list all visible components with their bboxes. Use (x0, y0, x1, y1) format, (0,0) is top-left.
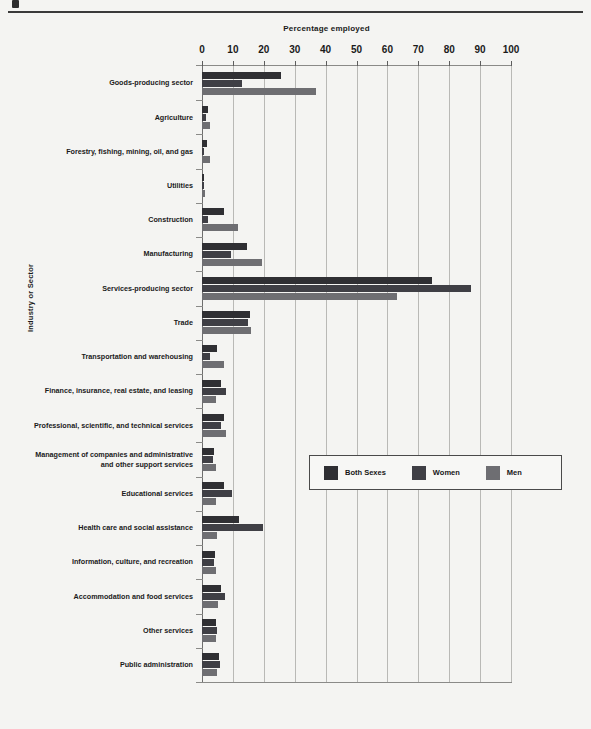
bar-both-sexes (202, 106, 208, 113)
category-label: Finance, insurance, real estate, and lea… (0, 386, 193, 396)
category-label: Manufacturing (0, 249, 193, 259)
category-separator (196, 682, 203, 683)
gridline-100 (511, 66, 512, 682)
bar-women (202, 114, 206, 121)
bar-both-sexes (202, 653, 219, 660)
bar-men (202, 259, 262, 266)
category-label: Educational services (0, 489, 193, 499)
bar-men (202, 224, 238, 231)
bar-women (202, 593, 225, 600)
bar-both-sexes (202, 619, 216, 626)
bar-men (202, 190, 205, 197)
x-tick-label-50: 50 (351, 44, 362, 55)
bar-both-sexes (202, 551, 215, 558)
x-tick-label-60: 60 (382, 44, 393, 55)
bar-row: Information, culture, and recreation (202, 545, 511, 579)
legend-item[interactable]: Women (412, 466, 460, 480)
bar-women (202, 422, 221, 429)
bar-men (202, 532, 217, 539)
x-tick-label-20: 20 (258, 44, 269, 55)
bar-women (202, 80, 242, 87)
bar-both-sexes (202, 140, 207, 147)
plot-area: 0102030405060708090100 Goods-producing s… (202, 66, 511, 682)
bar-row: Public administration (202, 648, 511, 682)
bar-women (202, 182, 204, 189)
bar-row: Transportation and warehousing (202, 340, 511, 374)
bar-men (202, 361, 224, 368)
bar-row: Utilities (202, 169, 511, 203)
bar-women (202, 627, 217, 634)
x-tick-label-100: 100 (503, 44, 520, 55)
category-label: Information, culture, and recreation (0, 557, 193, 567)
bar-women (202, 524, 263, 531)
category-label: Goods-producing sector (0, 78, 193, 88)
x-axis-title: Percentage employed (0, 24, 591, 33)
legend-swatch-icon (412, 466, 426, 480)
bar-row: Accommodation and food services (202, 579, 511, 613)
category-label: Transportation and warehousing (0, 352, 193, 362)
bar-row: Finance, insurance, real estate, and lea… (202, 374, 511, 408)
category-label: Trade (0, 318, 193, 328)
bar-women (202, 661, 220, 668)
category-label: Public administration (0, 660, 193, 670)
bar-both-sexes (202, 345, 217, 352)
bar-men (202, 293, 397, 300)
bar-row: Forestry, fishing, mining, oil, and gas (202, 134, 511, 168)
legend-item[interactable]: Both Sexes (324, 466, 386, 480)
bar-both-sexes (202, 277, 432, 284)
bar-row: Professional, scientific, and technical … (202, 408, 511, 442)
bar-both-sexes (202, 243, 247, 250)
bar-women (202, 319, 248, 326)
bar-women (202, 148, 204, 155)
bar-row: Services-producing sector (202, 271, 511, 305)
x-tick-label-0: 0 (199, 44, 205, 55)
category-label: Professional, scientific, and technical … (0, 421, 193, 431)
bar-row: Health care and social assistance (202, 511, 511, 545)
bar-row: Goods-producing sector (202, 66, 511, 100)
bar-men (202, 601, 218, 608)
bar-both-sexes (202, 414, 224, 421)
chart-legend: Both SexesWomenMen (309, 455, 562, 490)
bar-women (202, 559, 214, 566)
bar-row: Other services (202, 614, 511, 648)
x-tick-label-80: 80 (444, 44, 455, 55)
bar-both-sexes (202, 311, 250, 318)
bar-women (202, 490, 232, 497)
x-tick-label-40: 40 (320, 44, 331, 55)
category-label: Accommodation and food services (0, 592, 193, 602)
bar-row: Construction (202, 203, 511, 237)
legend-label: Men (507, 468, 522, 477)
header-divider-rule (8, 11, 583, 13)
category-label: Forestry, fishing, mining, oil, and gas (0, 147, 193, 157)
legend-item[interactable]: Men (486, 466, 522, 480)
bar-women (202, 353, 210, 360)
bar-men (202, 156, 210, 163)
bar-both-sexes (202, 380, 221, 387)
bar-both-sexes (202, 208, 224, 215)
bar-women (202, 456, 213, 463)
bar-both-sexes (202, 448, 214, 455)
bar-row: Manufacturing (202, 237, 511, 271)
bar-row: Trade (202, 306, 511, 340)
bar-men (202, 498, 216, 505)
x-tick-label-90: 90 (475, 44, 486, 55)
legend-label: Both Sexes (345, 468, 386, 477)
category-label: Other services (0, 626, 193, 636)
bar-men (202, 122, 210, 129)
chart-page: Percentage employed Industry or Sector 0… (0, 0, 591, 729)
category-label: Utilities (0, 181, 193, 191)
bar-women (202, 285, 471, 292)
bar-men (202, 88, 316, 95)
category-label: Health care and social assistance (0, 523, 193, 533)
bar-men (202, 635, 216, 642)
legend-swatch-icon (324, 466, 338, 480)
bar-men (202, 464, 216, 471)
bar-both-sexes (202, 174, 204, 181)
category-label: Agriculture (0, 113, 193, 123)
bar-men (202, 396, 216, 403)
bar-both-sexes (202, 585, 221, 592)
bar-women (202, 251, 231, 258)
bar-both-sexes (202, 72, 281, 79)
bar-men (202, 430, 226, 437)
bar-men (202, 669, 217, 676)
